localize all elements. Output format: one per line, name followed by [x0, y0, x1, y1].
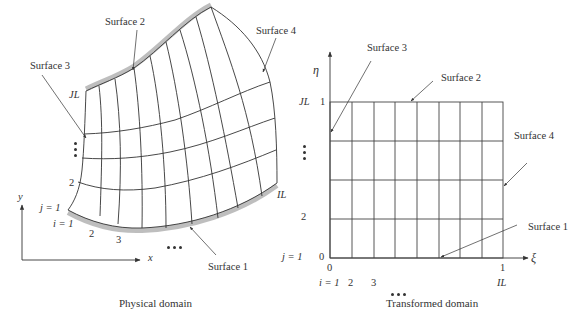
physical-surface-3-label: Surface 3: [30, 61, 70, 72]
transformed-surface-2-label: Surface 2: [441, 73, 481, 84]
eta-axis-label: η: [313, 64, 319, 76]
transformed-j2-label: 2: [301, 212, 306, 223]
physical-surface-4-label: Surface 4: [256, 26, 296, 37]
physical-jl-label: JL: [69, 90, 80, 101]
x-axis-label: x: [148, 253, 153, 264]
physical-surface-1-label: Surface 1: [208, 262, 248, 273]
xi-axis-label: ξ: [531, 252, 536, 264]
eta-1-tick: 1: [320, 97, 325, 108]
physical-i2-label: 2: [89, 229, 94, 240]
physical-grid-rows: [68, 7, 277, 228]
physical-j2-label: 2: [69, 178, 74, 189]
physical-j1-label: j = 1: [40, 203, 61, 214]
xi-0-tick: 0: [327, 263, 332, 274]
physical-j-ellipsis: [74, 142, 78, 160]
physical-i1-label: i = 1: [53, 219, 74, 230]
transformed-i3-label: 3: [371, 278, 376, 289]
transformed-surface-3-label: Surface 3: [367, 43, 407, 54]
xi-1-tick: 1: [500, 263, 505, 274]
physical-grid-cols: [68, 7, 277, 228]
transformed-grid: [330, 102, 503, 258]
eta-0-tick: 0: [319, 252, 324, 263]
surface-1-shade: [68, 186, 277, 231]
physical-i-ellipsis: [167, 235, 185, 239]
physical-i3-label: 3: [116, 235, 121, 246]
diagram-canvas: [0, 0, 585, 320]
transformed-jl-label: JL: [299, 97, 310, 108]
transformed-j-ellipsis: [303, 145, 307, 163]
physical-domain-caption: Physical domain: [119, 298, 192, 309]
transformed-domain-caption: Transformed domain: [386, 298, 478, 309]
transformed-i2-label: 2: [348, 278, 353, 289]
transformed-i1-label: i = 1: [319, 278, 340, 289]
transformed-j1-label: j = 1: [282, 252, 303, 263]
transformed-surface-1-label: Surface 1: [528, 222, 568, 233]
physical-il-label: IL: [277, 190, 286, 201]
transformed-i-ellipsis: [391, 282, 409, 286]
transformed-surface-4-label: Surface 4: [514, 131, 554, 142]
transformed-il-label: IL: [497, 278, 506, 289]
y-axis-label: y: [18, 192, 23, 203]
transformed-domain: [330, 52, 528, 258]
physical-surface-2-label: Surface 2: [105, 17, 145, 28]
